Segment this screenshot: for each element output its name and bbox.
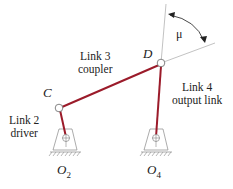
point-o4-label: O4 [147, 163, 161, 182]
link4-label: Link 4 output link [172, 81, 222, 107]
point-o2-label: O2 [57, 163, 71, 182]
link2-role: driver [9, 127, 39, 140]
joint-c-icon [55, 104, 63, 112]
link4-role: output link [172, 94, 222, 107]
link2-label: Link 2 driver [9, 114, 39, 140]
link2 [60, 110, 66, 137]
link3-label: Link 3 coupler [78, 50, 112, 76]
link4 [156, 66, 161, 137]
link4-extension-line [161, 4, 166, 63]
link3-name: Link 3 [78, 50, 112, 63]
joint-d-icon [157, 59, 165, 67]
coupler-extension-line [161, 43, 215, 63]
link3-role: coupler [78, 63, 112, 76]
point-d-label: D [143, 47, 152, 60]
link4-name: Link 4 [172, 81, 222, 94]
angle-mu-label: μ [176, 28, 182, 41]
arc-arrow-start-icon [168, 12, 175, 18]
arc-arrow-end-icon [200, 36, 207, 43]
link2-name: Link 2 [9, 114, 39, 127]
point-c-label: C [43, 86, 52, 99]
